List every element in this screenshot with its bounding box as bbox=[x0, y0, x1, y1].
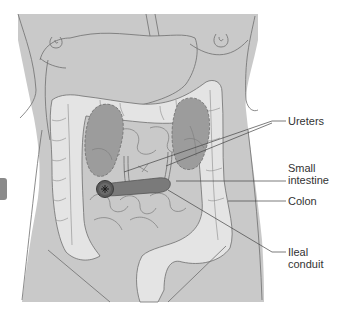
label-colon-text: Colon bbox=[288, 195, 317, 207]
label-ileal-conduit-line2: conduit bbox=[288, 258, 323, 270]
stoma bbox=[97, 181, 114, 198]
label-ureters-text: Ureters bbox=[288, 115, 324, 127]
label-small-intestine: Small intestine bbox=[288, 162, 329, 186]
side-tab-handle[interactable] bbox=[0, 178, 7, 200]
label-small-intestine-line1: Small bbox=[288, 162, 329, 174]
ileal-conduit-diagram bbox=[0, 0, 338, 318]
label-colon: Colon bbox=[288, 195, 317, 207]
label-ileal-conduit-line1: Ileal bbox=[288, 246, 323, 258]
label-small-intestine-line2: intestine bbox=[288, 174, 329, 186]
label-ureters: Ureters bbox=[288, 115, 324, 127]
label-ileal-conduit: Ileal conduit bbox=[288, 246, 323, 270]
